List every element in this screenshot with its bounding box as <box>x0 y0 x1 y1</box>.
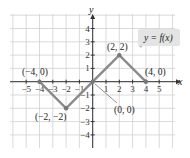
point-label-2-2: (2, 2) <box>107 42 128 53</box>
legend-label: y = f(x) <box>143 33 173 44</box>
point-label-0-0: (0, 0) <box>114 105 135 116</box>
svg-text:3: 3 <box>130 84 135 94</box>
svg-text:2: 2 <box>85 50 90 60</box>
svg-text:−2: −2 <box>80 103 90 113</box>
svg-text:−2: −2 <box>61 84 71 94</box>
svg-text:4: 4 <box>85 24 90 34</box>
svg-text:5: 5 <box>157 84 162 94</box>
y-axis-label: y <box>88 4 94 15</box>
point-label-neg2-neg2: (−2, −2) <box>35 112 66 123</box>
point-label-neg4-0: (−4, 0) <box>22 67 48 78</box>
x-axis-label: x <box>177 76 183 87</box>
svg-text:−5: −5 <box>21 84 31 94</box>
svg-text:2: 2 <box>117 84 122 94</box>
svg-text:−3: −3 <box>80 117 90 127</box>
function-graph: x y −5−4−3−2−1123454321−1−2−3−4 y = f(x)… <box>0 0 190 158</box>
svg-text:3: 3 <box>85 37 90 47</box>
point-label-4-0: (4, 0) <box>145 67 166 78</box>
svg-text:−4: −4 <box>80 130 90 140</box>
svg-text:4: 4 <box>144 84 149 94</box>
svg-text:1: 1 <box>85 63 90 73</box>
